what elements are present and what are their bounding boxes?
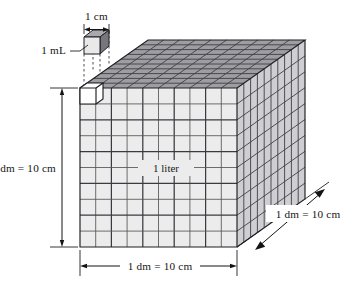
label-unit-cube-volume: 1 mL <box>41 44 66 56</box>
volume-cube-figure: 1 cm 1 mL 1 dm = 10 cm 1 dm = 10 cm <box>0 0 351 284</box>
unit-cube-notch <box>80 83 103 104</box>
liter-label-group: 1 liter <box>138 160 194 176</box>
label-unit-cube-edge: 1 cm <box>85 10 108 22</box>
label-big-cube-volume: 1 liter <box>153 162 179 174</box>
label-depth-dimension: 1 dm = 10 cm <box>276 208 341 220</box>
label-height-dimension: 1 dm = 10 cm <box>0 162 56 174</box>
liter-cube-diagram: 1 cm 1 mL 1 dm = 10 cm 1 dm = 10 cm <box>0 0 351 284</box>
label-width-dimension: 1 dm = 10 cm <box>128 260 193 272</box>
